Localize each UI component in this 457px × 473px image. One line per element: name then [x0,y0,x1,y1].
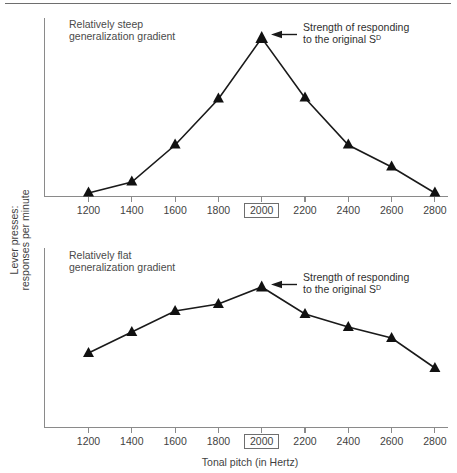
y-axis-label-line2: responses per minute [19,189,31,290]
x-tick-label: 1600 [163,435,187,447]
annotation-line2: to the original SD [303,33,381,45]
x-tick-label: 2400 [337,435,361,447]
annotation-line2-text: to the original S [303,283,376,295]
x-axis-title: Tonal pitch (in Hertz) [202,456,298,468]
panel-bottom-caption: Relatively flat generalization gradient [69,249,175,273]
panel-top-caption-line1: Relatively steep [69,18,143,30]
x-tick-label: 1400 [120,435,144,447]
x-tick-label-highlighted: 2000 [250,204,274,216]
panel-top-x-ticks [89,197,435,202]
x-tick-label: 2600 [380,435,404,447]
panel-bottom-data-line [89,287,435,368]
panel-bottom-x-tick-labels: 1200 1400 1600 1800 2000 2200 2400 2600 … [77,435,447,449]
x-tick-label: 2200 [293,435,317,447]
x-tick-label: 1400 [120,204,144,216]
panel-flat-gradient: 1200 1400 1600 1800 2000 2200 2400 2600 … [45,248,449,468]
annotation-line2: to the original SD [303,283,381,295]
x-tick-label: 2800 [423,204,447,216]
x-tick-label: 2200 [293,204,317,216]
panel-steep-gradient: 1200 1400 1600 1800 2000 2200 2400 2600 … [45,18,449,218]
figure-container: Lever presses: responses per minute [0,0,457,473]
data-point-marker [429,362,440,372]
x-tick-label: 1800 [207,435,231,447]
data-point-marker [256,281,267,292]
panel-bottom-caption-line2: generalization gradient [69,261,175,273]
panel-bottom-caption-line1: Relatively flat [69,249,132,261]
x-tick-label: 1800 [207,204,231,216]
x-tick-label: 1600 [163,204,187,216]
x-tick-label: 1200 [77,204,101,216]
panel-bottom-annotation: Strength of responding to the original S… [271,271,409,295]
generalization-gradient-figure: Lever presses: responses per minute [0,0,457,473]
panel-top-x-tick-labels: 1200 1400 1600 1800 2000 2200 2400 2600 … [77,204,447,218]
data-point-marker [300,308,311,318]
annotation-line1: Strength of responding [303,21,409,33]
x-tick-label: 2800 [423,435,447,447]
x-tick-label: 1200 [77,435,101,447]
annotation-line2-superscript: D [376,284,381,291]
data-point-marker [126,176,137,186]
x-tick-label: 2600 [380,204,404,216]
y-axis-label: Lever presses: responses per minute [8,189,31,290]
panel-bottom-x-ticks [89,428,435,433]
annotation-line1: Strength of responding [303,271,409,283]
panel-top-caption: Relatively steep generalization gradient [69,18,175,42]
panel-top-caption-line2: generalization gradient [69,30,175,42]
annotation-arrow-head [271,31,282,38]
x-tick-label: 2400 [337,204,361,216]
x-tick-label-highlighted: 2000 [250,435,274,447]
annotation-line2-superscript: D [376,34,381,41]
panel-top-data-markers [83,31,440,197]
panel-top-annotation: Strength of responding to the original S… [271,21,409,45]
panel-top-data-line [89,38,435,193]
panel-bottom-data-markers [83,281,440,373]
data-point-marker [255,31,268,43]
annotation-arrow-head [271,281,282,288]
annotation-line2-text: to the original S [303,33,376,45]
